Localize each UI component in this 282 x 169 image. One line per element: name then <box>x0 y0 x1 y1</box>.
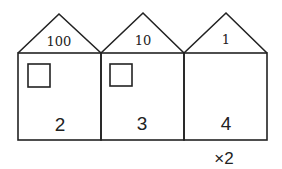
roof-label-hundreds: 100 <box>47 34 72 49</box>
house-tens: 10 3 <box>101 13 184 140</box>
place-value-houses-diagram: 100 2 10 3 1 4 ×2 <box>0 0 282 169</box>
house-hundreds: 100 2 <box>18 14 101 140</box>
house-ones: 1 4 <box>184 13 267 140</box>
digit-ones: 4 <box>221 113 232 134</box>
multiplier-label: ×2 <box>214 149 233 168</box>
digit-tens: 3 <box>137 113 148 134</box>
window-box-hundreds <box>28 64 50 87</box>
roof-label-tens: 10 <box>135 33 152 48</box>
roof-label-ones: 1 <box>222 32 230 47</box>
digit-hundreds: 2 <box>55 114 66 135</box>
window-box-tens <box>110 64 132 86</box>
